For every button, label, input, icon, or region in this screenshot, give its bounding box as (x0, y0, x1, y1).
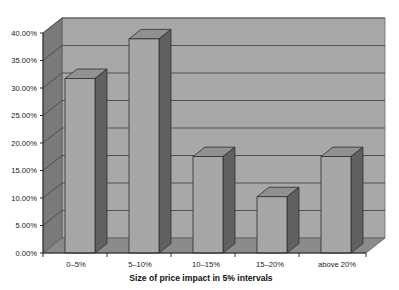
bar-chart-3d: 0.00% 5.00% 10.00% 15.00% 20.00% 25.00% … (0, 0, 399, 290)
bar-side-face (95, 69, 107, 253)
bar-side-face (223, 147, 235, 253)
x-axis-tick-label: 5–10% (128, 260, 152, 269)
bar-front-face (321, 157, 351, 253)
x-tick-marks (43, 253, 366, 257)
bar-front-face (129, 39, 159, 253)
bar-side-face (351, 147, 363, 253)
y-axis-tick-label: 10.00% (11, 194, 37, 203)
bar-front-face (193, 157, 223, 253)
y-axis-tick-label: 25.00% (11, 111, 37, 120)
x-axis-title: Size of price impact in 5% intervals (129, 273, 272, 283)
bar-group-4[interactable] (321, 147, 363, 253)
y-axis-tick-label: 20.00% (11, 139, 37, 148)
y-axis-tick-label: 5.00% (15, 221, 37, 230)
x-axis-tick-label: 15–20% (256, 260, 284, 269)
y-axis-tick-label: 0.00% (15, 249, 37, 258)
chart-container: 0.00% 5.00% 10.00% 15.00% 20.00% 25.00% … (0, 0, 399, 290)
x-axis-tick-label: above 20% (318, 260, 356, 269)
bar-side-face (287, 187, 299, 253)
y-axis-tick-label: 40.00% (11, 29, 37, 38)
bar-group-1[interactable] (129, 29, 171, 253)
y-axis-tick-label: 30.00% (11, 84, 37, 93)
bar-group-2[interactable] (193, 147, 235, 253)
bar-side-face (159, 29, 171, 253)
x-axis-tick-label: 0–5% (66, 260, 86, 269)
y-axis-tick-label: 15.00% (11, 166, 37, 175)
y-axis-tick-label: 35.00% (11, 56, 37, 65)
bar-front-face (257, 197, 287, 253)
x-axis-tick-label: 10–15% (192, 260, 220, 269)
bar-front-face (65, 79, 95, 254)
bar-group-0[interactable] (65, 69, 107, 253)
bar-group-3[interactable] (257, 187, 299, 253)
